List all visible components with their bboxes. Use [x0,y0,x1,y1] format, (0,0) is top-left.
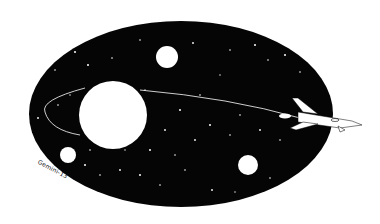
lower-right-planet [238,155,258,175]
lower-left-planet [60,147,76,163]
space-illustration [0,0,380,224]
top-planet [156,46,178,68]
large-planet [79,81,147,149]
